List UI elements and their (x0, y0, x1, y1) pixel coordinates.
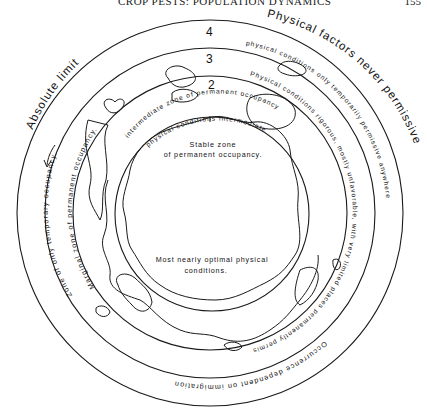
island-blob (96, 306, 110, 317)
optimal-conditions-line1: Most nearly optimal physical (156, 255, 269, 264)
ring-3 (45, 48, 375, 378)
optimal-conditions-line2: conditions. (184, 266, 227, 275)
zone-number-3: 3 (206, 52, 213, 66)
population-zone-diagram: 4 3 2 Absolute limit Physical factors ne… (0, 0, 427, 412)
zone2-left-label: Marginal zone of permanent occupancy. (65, 125, 99, 291)
zone-number-4: 4 (206, 25, 213, 39)
island-blob (104, 99, 124, 113)
stable-zone-title: Stable zone (190, 140, 237, 149)
stable-zone-subtitle: of permanent occupancy. (164, 150, 263, 159)
absolute-limit-label: Absolute limit (23, 56, 81, 131)
island-blob (295, 267, 318, 305)
intermediate-zone-label: intermediate zone of permanent occupancy (123, 88, 281, 139)
island-blob (166, 66, 196, 87)
physical-factors-label: Physical factors never permissive (266, 7, 424, 146)
island-blob (116, 274, 152, 311)
